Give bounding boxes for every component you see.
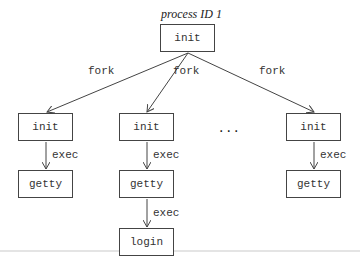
exec-label-2: exec: [153, 149, 179, 161]
fork-label-right: fork: [259, 65, 285, 77]
root-init-box: init: [160, 24, 215, 52]
exec-label-login: exec: [153, 207, 179, 219]
child-init-box-1: init: [18, 113, 73, 141]
child-init-box-3: init: [286, 113, 341, 141]
process-tree-diagram: process ID 1 init fork fork fork init ex…: [0, 0, 360, 273]
fork-label-left: fork: [88, 65, 114, 77]
fork-label-middle: fork: [173, 65, 199, 77]
child-init-box-2: init: [119, 113, 174, 141]
root-title: process ID 1: [161, 7, 222, 22]
getty-box-1: getty: [18, 170, 73, 198]
ellipsis-more-processes: ...: [219, 118, 241, 136]
login-box: login: [119, 228, 174, 256]
divider-line: [0, 250, 360, 252]
getty-box-3: getty: [286, 170, 341, 198]
exec-label-3: exec: [320, 149, 346, 161]
exec-label-1: exec: [52, 149, 78, 161]
getty-box-2: getty: [119, 170, 174, 198]
